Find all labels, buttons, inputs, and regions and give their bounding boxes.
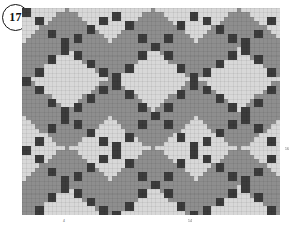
figure-root: 17 4 14 16 bbox=[0, 0, 298, 229]
x-tick-label-1: 14 bbox=[188, 219, 192, 223]
x-tick-label-0: 4 bbox=[63, 219, 65, 223]
y-tick-label-0: 16 bbox=[285, 147, 289, 151]
argyle-pattern-plot bbox=[22, 8, 280, 215]
pattern-canvas bbox=[22, 8, 280, 215]
